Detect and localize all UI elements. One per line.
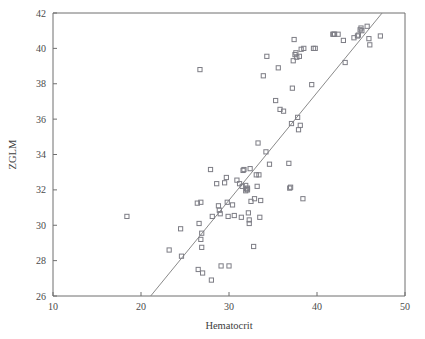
data-point-marker [257,173,261,177]
x-axis-title: Hematocrit [205,320,252,331]
y-tick-label: 28 [36,255,46,266]
data-point-marker [215,182,219,186]
axes [53,13,405,296]
data-point-marker [301,197,305,201]
data-point-marker [276,66,280,70]
y-tick-label: 30 [36,220,46,231]
data-point-marker [239,215,243,219]
data-point-marker [368,43,372,47]
data-point-marker [199,237,203,241]
data-point-marker [246,211,250,215]
y-tick-label: 34 [36,149,46,160]
data-point-marker [292,37,296,41]
data-point-marker [230,203,234,207]
data-point-marker [287,161,291,165]
data-point-marker [232,213,236,217]
data-point-marker [167,248,171,252]
x-tick-label: 30 [224,301,234,312]
y-tick-label: 36 [36,114,46,125]
y-axis-title: ZGLM [7,139,18,169]
data-point-marker [197,221,201,225]
data-point-marker [209,278,213,282]
data-point-marker [267,162,271,166]
y-tick-label: 40 [36,43,46,54]
data-point-marker [252,244,256,248]
data-point-marker [196,267,200,271]
data-point-marker [125,214,129,218]
data-point-marker [255,184,259,188]
fit-line-segment [151,13,382,296]
data-point-marker [274,98,278,102]
data-point-marker [261,74,265,78]
data-point-marker [200,245,204,249]
y-tick-label: 32 [36,184,46,195]
x-tick-label: 20 [136,301,146,312]
data-points [125,24,383,282]
data-point-marker [258,215,262,219]
data-point-marker [290,86,294,90]
data-point-marker [296,128,300,132]
data-point-marker [341,38,345,42]
y-tick-label: 26 [36,291,46,302]
x-tick-label: 40 [312,301,322,312]
data-point-marker [254,173,258,177]
data-point-marker [179,227,183,231]
data-point-marker [248,167,252,171]
data-point-marker [298,123,302,127]
x-tick-label: 50 [400,301,410,312]
data-point-marker [265,54,269,58]
data-point-marker [216,204,220,208]
data-point-marker [223,181,227,185]
y-tick-label: 42 [36,8,46,19]
data-point-marker [201,271,205,275]
data-point-marker [365,24,369,28]
data-point-marker [210,214,214,218]
scatter-plot-figure: 2628303234363840421020304050HematocritZG… [0,0,425,339]
data-point-marker [208,167,212,171]
data-point-marker [227,264,231,268]
data-point-marker [198,68,202,72]
data-point-marker [219,264,223,268]
data-point-marker [367,37,371,41]
data-point-marker [256,141,260,145]
data-point-marker [378,34,382,38]
data-point-marker [310,83,314,87]
data-point-marker [259,198,263,202]
x-tick-label: 10 [48,301,58,312]
y-tick-label: 38 [36,78,46,89]
plot-canvas: 2628303234363840421020304050HematocritZG… [0,0,425,339]
data-point-marker [343,60,347,64]
data-point-marker [226,214,230,218]
regression-line [151,13,382,296]
data-point-marker [224,175,228,179]
